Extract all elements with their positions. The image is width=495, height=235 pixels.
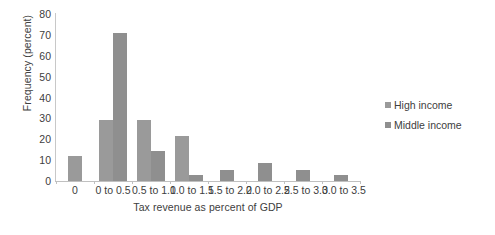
y-axis-tick-label: 60	[5, 51, 51, 62]
y-axis-tick-label: 40	[5, 92, 51, 103]
plot-area	[56, 14, 360, 181]
bar	[220, 170, 234, 181]
x-axis-tick-mark	[208, 181, 209, 184]
y-axis-tick-label: 80	[5, 9, 51, 20]
bar	[68, 156, 82, 181]
legend-item: Middle income	[385, 120, 462, 131]
y-axis-tick-labels: 01020304050607080	[0, 0, 51, 195]
x-axis-tick-label: 0.5 to 1.0	[132, 184, 170, 197]
x-axis-tick-labels: 00 to 0.50.5 to 1.01.0 to 1.51.5 to 2.02…	[56, 184, 360, 200]
bar	[296, 170, 310, 181]
bar-group	[94, 14, 132, 181]
x-axis-tick-label: 2.5 to 3.0	[284, 184, 322, 197]
x-axis-tick-mark	[56, 181, 57, 184]
legend-label: Middle income	[394, 120, 462, 131]
x-axis-tick-mark	[246, 181, 247, 184]
bar-group	[170, 14, 208, 181]
x-axis-tick-label: 0 to 0.5	[94, 184, 132, 197]
x-axis-tick-mark	[132, 181, 133, 184]
x-axis-tick-label: 1.0 to 1.5	[170, 184, 208, 197]
bar	[137, 120, 151, 181]
legend-label: High income	[394, 100, 452, 111]
bar-group	[246, 14, 284, 181]
x-axis-tick-label: 0	[56, 184, 94, 197]
x-axis-tick-mark	[360, 181, 361, 184]
bar-group	[284, 14, 322, 181]
y-axis-tick-label: 20	[5, 134, 51, 145]
legend-swatch-icon	[385, 122, 391, 128]
x-axis-tick-mark	[322, 181, 323, 184]
y-axis-tick-label: 70	[5, 30, 51, 41]
bar-group	[132, 14, 170, 181]
bar	[113, 33, 127, 181]
x-axis-title: Tax revenue as percent of GDP	[56, 201, 360, 213]
y-axis-tick-label: 10	[5, 155, 51, 166]
legend-item: High income	[385, 100, 462, 111]
y-axis-tick-label: 30	[5, 113, 51, 124]
x-axis-tick-mark	[170, 181, 171, 184]
x-axis-tick-label: 1.5 to 2.0	[208, 184, 246, 197]
legend-swatch-icon	[385, 102, 391, 108]
y-axis-tick-label: 50	[5, 71, 51, 82]
x-axis-tick-label: 3.0 to 3.5	[322, 184, 360, 197]
y-axis-tick-label: 0	[5, 176, 51, 187]
chart-legend: High incomeMiddle income	[385, 100, 462, 139]
bar	[258, 163, 272, 181]
x-axis-tick-mark	[94, 181, 95, 184]
bar-group	[322, 14, 360, 181]
bar	[334, 175, 348, 181]
x-axis-tick-label: 2.0 to 2.5	[246, 184, 284, 197]
x-axis-tick-mark	[284, 181, 285, 184]
bar	[151, 151, 165, 181]
bar	[189, 175, 203, 181]
bar-group	[208, 14, 246, 181]
bar-chart: Frequency (percent) 01020304050607080 00…	[0, 0, 495, 235]
bar	[175, 136, 189, 181]
bar	[99, 120, 113, 181]
bar-group	[56, 14, 94, 181]
